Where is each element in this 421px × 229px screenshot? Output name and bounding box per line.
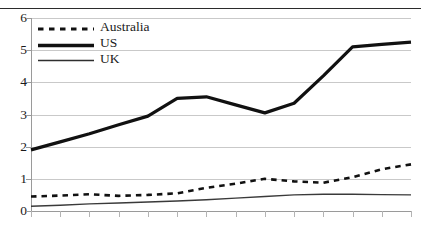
y-tick-mark: [26, 50, 31, 51]
y-tick-mark: [26, 115, 31, 116]
legend: Australia US UK: [38, 19, 178, 67]
y-tick-mark: [26, 179, 31, 180]
x-tick-mark: [177, 211, 178, 217]
x-tick-mark: [294, 211, 295, 217]
legend-item-us: US: [38, 35, 178, 51]
legend-label-uk: UK: [100, 52, 120, 66]
legend-item-australia: Australia: [38, 19, 178, 35]
x-tick-mark: [265, 211, 266, 217]
series-line-australia: [31, 164, 411, 196]
x-tick-mark: [206, 211, 207, 217]
legend-item-uk: UK: [38, 51, 178, 67]
thick-line-swatch-icon: [38, 37, 94, 49]
y-tick-mark: [26, 82, 31, 83]
legend-label-australia: Australia: [100, 20, 150, 34]
line-chart: 0123456 Australia US: [0, 0, 421, 229]
thin-line-swatch-icon: [38, 53, 94, 65]
y-tick-mark: [26, 147, 31, 148]
x-tick-mark: [31, 211, 32, 217]
x-tick-mark: [148, 211, 149, 217]
x-tick-mark: [353, 211, 354, 217]
legend-label-us: US: [100, 36, 117, 50]
x-tick-mark: [382, 211, 383, 217]
x-tick-mark: [236, 211, 237, 217]
y-tick-mark: [26, 18, 31, 19]
x-tick-mark: [60, 211, 61, 217]
x-tick-mark: [119, 211, 120, 217]
dashed-line-swatch-icon: [38, 21, 94, 33]
x-tick-mark: [323, 211, 324, 217]
series-line-uk: [31, 194, 411, 206]
x-tick-mark: [411, 211, 412, 217]
x-tick-mark: [89, 211, 90, 217]
